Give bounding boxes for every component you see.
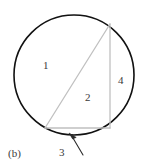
region-label-2: 2 bbox=[85, 92, 91, 103]
region-label-3: 3 bbox=[59, 147, 65, 158]
circle-outline bbox=[14, 15, 134, 135]
figure-caption: (b) bbox=[8, 148, 21, 159]
region-label-1: 1 bbox=[43, 60, 49, 71]
triangle-hypotenuse-line bbox=[45, 24, 110, 128]
figure-container: 1 2 3 4 (b) bbox=[0, 0, 148, 167]
callout-arrow-head bbox=[69, 133, 76, 139]
region-label-4: 4 bbox=[118, 75, 124, 86]
circle-triangle-diagram bbox=[0, 0, 148, 167]
